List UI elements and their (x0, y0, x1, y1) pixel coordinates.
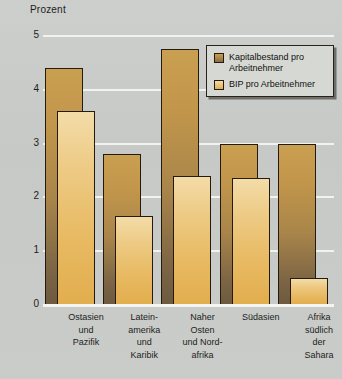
bar-group (45, 36, 103, 305)
legend-swatch-kapitalbestand (214, 53, 224, 63)
x-axis-category-labels: OstasienundPazifikLatein-amerikaundKarib… (43, 311, 334, 375)
x-axis-category-label: OstasienundPazifik (55, 311, 117, 349)
x-axis-baseline (43, 304, 334, 307)
y-axis-tick-label-1: 1 (13, 244, 39, 255)
y-axis-tick-label-3: 3 (13, 137, 39, 148)
y-axis-tick-label-2: 2 (13, 190, 39, 201)
bar-bip (232, 178, 270, 306)
y-axis-tick-label-0: 0 (13, 298, 39, 309)
chart-legend: Kapitalbestand pro Arbeitnehmer BIP pro … (206, 45, 334, 97)
y-axis-tick-label-5: 5 (13, 29, 39, 40)
x-axis-category-label: Latein-amerikaundKaribik (113, 311, 175, 361)
x-axis-category-label: Südasien (230, 311, 292, 324)
legend-item-bip[interactable]: BIP pro Arbeitnehmer (214, 79, 327, 90)
x-axis-category-label: AfrikasüdlichderSahara (288, 311, 342, 361)
legend-item-kapitalbestand[interactable]: Kapitalbestand pro Arbeitnehmer (214, 52, 327, 74)
bar-bip (173, 176, 211, 305)
y-axis-title: Prozent (30, 4, 66, 15)
bar-group (103, 36, 161, 305)
x-axis-category-label: NaherOstenund Nord-afrika (172, 311, 234, 361)
legend-label-kapitalbestand: Kapitalbestand pro Arbeitnehmer (229, 52, 304, 74)
legend-label-bip: BIP pro Arbeitnehmer (229, 79, 315, 90)
legend-swatch-bip (214, 80, 224, 90)
bar-bip (57, 111, 95, 305)
chart-figure: Prozent OstasienundPazifikLatein-amerika… (0, 0, 342, 379)
bar-bip (115, 216, 153, 305)
y-axis-tick-label-4: 4 (13, 83, 39, 94)
bar-bip (290, 278, 328, 305)
